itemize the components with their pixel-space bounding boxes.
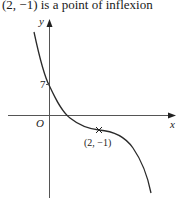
y-intercept-label: 7 [40,78,46,90]
x-axis-label: x [169,118,175,130]
graph: y x O 7 (2, −1) [0,0,178,198]
y-axis-arrow-icon [47,19,53,27]
inflexion-point-label: (2, −1) [84,137,111,149]
origin-label: O [36,117,44,129]
cubic-curve [34,32,151,193]
y-axis-label: y [38,15,44,27]
